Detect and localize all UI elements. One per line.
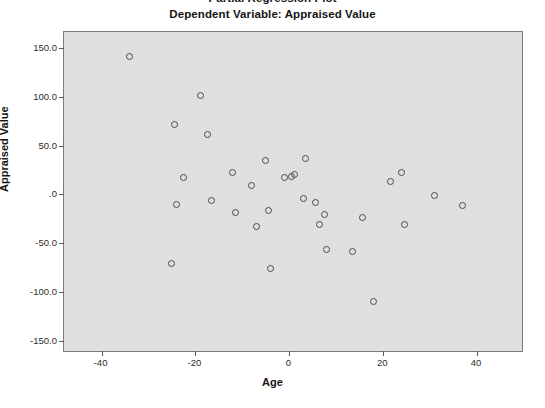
x-axis-tick-label: -20: [188, 357, 202, 368]
data-point: [229, 169, 236, 176]
data-point: [370, 298, 377, 305]
x-axis-tick: [383, 351, 384, 356]
y-axis-tick: [59, 48, 64, 49]
data-point: [291, 171, 298, 178]
y-axis-tick: [59, 146, 64, 147]
x-axis-tick-labels: -40-2002040: [63, 356, 523, 370]
data-point: [323, 246, 330, 253]
data-point: [321, 211, 328, 218]
y-axis-tick-label: 100.0: [33, 90, 57, 101]
partial-regression-plot: Partial Regression Plot Dependent Variab…: [0, 0, 545, 408]
data-point: [349, 248, 356, 255]
y-axis-tick-label: -50.0: [35, 237, 57, 248]
data-point: [126, 53, 133, 60]
data-point: [431, 192, 438, 199]
x-axis-tick-label: 40: [471, 357, 482, 368]
data-point: [267, 265, 274, 272]
x-axis-tick: [195, 351, 196, 356]
chart-title: Partial Regression Plot: [0, 0, 545, 5]
x-axis-label: Age: [0, 376, 545, 388]
data-point: [300, 195, 307, 202]
data-point: [401, 221, 408, 228]
data-point: [262, 157, 269, 164]
data-point: [312, 199, 319, 206]
y-axis-tick: [59, 341, 64, 342]
x-axis-tick: [289, 351, 290, 356]
data-point: [180, 174, 187, 181]
data-point: [232, 209, 239, 216]
y-axis-tick: [59, 194, 64, 195]
data-point: [265, 207, 272, 214]
data-point: [359, 214, 366, 221]
data-point: [387, 178, 394, 185]
data-point: [398, 169, 405, 176]
y-axis-tick: [59, 243, 64, 244]
data-point: [168, 260, 175, 267]
y-axis-tick-labels: 150.0100.050.0.0-50.0-100.0-150.0: [0, 31, 57, 352]
y-axis-tick: [59, 97, 64, 98]
plot-area: [63, 31, 523, 352]
chart-subtitle: Dependent Variable: Appraised Value: [0, 8, 545, 20]
y-axis-tick-label: 50.0: [39, 139, 58, 150]
data-point: [316, 221, 323, 228]
data-point: [173, 201, 180, 208]
y-axis-tick-label: .0: [49, 188, 57, 199]
data-point: [459, 202, 466, 209]
x-axis-tick-label: 20: [377, 357, 388, 368]
data-point: [253, 223, 260, 230]
y-axis-tick-label: 150.0: [33, 41, 57, 52]
y-axis-tick-label: -150.0: [30, 335, 57, 346]
x-axis-tick-label: 0: [286, 357, 291, 368]
data-point: [302, 155, 309, 162]
x-axis-tick-label: -40: [94, 357, 108, 368]
y-axis-tick: [59, 292, 64, 293]
y-axis-tick-label: -100.0: [30, 286, 57, 297]
data-point: [204, 131, 211, 138]
x-axis-tick: [102, 351, 103, 356]
x-axis-tick: [477, 351, 478, 356]
data-point: [248, 182, 255, 189]
data-point: [171, 121, 178, 128]
plot-background-texture: [64, 32, 522, 351]
data-point: [197, 92, 204, 99]
data-point: [281, 174, 288, 181]
data-point: [208, 197, 215, 204]
